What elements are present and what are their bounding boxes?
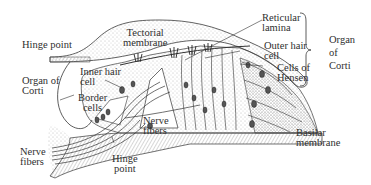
label-outer-hair-cell: Outer hair cell <box>264 41 307 61</box>
basilar-membrane-shape <box>50 133 322 178</box>
label-organ-of-corti-right-line1: Organ <box>329 33 355 46</box>
label-border-cells-line2: cells <box>78 103 107 113</box>
label-inner-hair-cell-line2: cell <box>80 77 121 87</box>
label-cells-of-hensen: Cells of Hensen <box>277 63 310 83</box>
label-border-cells: Border cells <box>78 93 107 113</box>
label-nerve-fibers-center-line2: fibers <box>143 126 169 136</box>
label-cells-of-hensen-line2: Hensen <box>277 73 310 83</box>
label-organ-of-corti-left-line2: Corti <box>22 86 59 96</box>
label-reticular-lamina-line2: lamina <box>262 23 300 33</box>
label-hinge-point-bottom: Hinge point <box>112 154 138 174</box>
label-organ-of-corti-right-line3: Corti <box>329 59 355 72</box>
label-hinge-point-bottom-line2: point <box>112 164 138 174</box>
label-nerve-fibers-left-line2: fibers <box>20 157 46 167</box>
label-tectorial-membrane: Tectorial membrane <box>123 28 167 48</box>
label-organ-of-corti-right: Organ of Corti <box>329 33 355 72</box>
label-nerve-fibers-left: Nerve fibers <box>20 147 46 167</box>
label-reticular-lamina: Reticular lamina <box>262 13 300 33</box>
label-nerve-fibers-center: Nerve fibers <box>143 116 169 136</box>
label-inner-hair-cell: Inner hair cell <box>80 67 121 87</box>
label-organ-of-corti-left: Organ of Corti <box>22 76 59 96</box>
label-tectorial-membrane-line2: membrane <box>123 38 167 48</box>
label-organ-of-corti-right-line2: of <box>329 46 355 59</box>
hinge-limbus-top <box>50 57 90 62</box>
label-hinge-point-top: Hinge point <box>22 40 72 50</box>
label-outer-hair-cell-line2: cell <box>264 51 307 61</box>
label-basilar-membrane: Basilar membrane <box>296 128 340 148</box>
label-basilar-membrane-line2: membrane <box>296 138 340 148</box>
